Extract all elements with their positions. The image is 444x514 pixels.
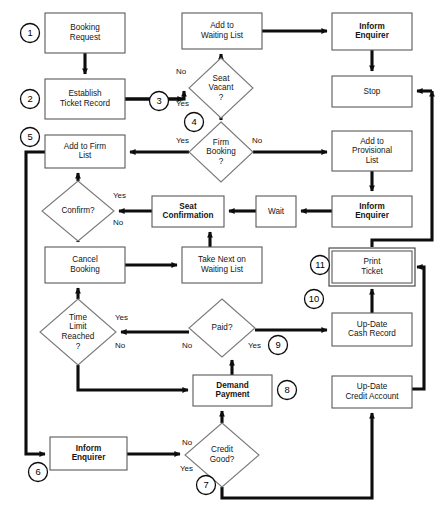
step-5[interactable]: 5 bbox=[21, 128, 40, 147]
node-inform_enquirer_top[interactable]: InformEnquirer bbox=[332, 13, 412, 50]
decision-credit_good[interactable]: CreditGood? bbox=[185, 423, 259, 487]
node-label-line: Inform bbox=[76, 444, 101, 453]
edge-label-time-limit-yes: Yes bbox=[115, 313, 128, 322]
step-1[interactable]: 1 bbox=[21, 24, 40, 43]
node-label-line: ? bbox=[76, 342, 81, 351]
node-label-line: Add to bbox=[360, 137, 384, 146]
edge-label-paid-yes: Yes bbox=[248, 341, 261, 350]
edge-label-confirm-yes: Yes bbox=[113, 191, 126, 200]
node-label-line: Booking bbox=[206, 147, 236, 156]
node-take_next_waiting[interactable]: Take Next onWaiting List bbox=[182, 247, 262, 283]
node-label-line: Credit Account bbox=[345, 392, 399, 401]
node-label-line: Add to Firm bbox=[64, 142, 106, 151]
flowchart-canvas: BookingRequestEstablishTicket RecordAdd … bbox=[0, 0, 444, 514]
node-add_firm_list[interactable]: Add to FirmList bbox=[45, 135, 125, 168]
edge-label-seat-vacant-no: No bbox=[176, 67, 187, 76]
node-inform_enquirer_mid[interactable]: InformEnquirer bbox=[332, 196, 412, 227]
edge-label-time-limit-no: No bbox=[115, 341, 126, 350]
node-label-line: Request bbox=[70, 33, 101, 42]
node-update_credit_account[interactable]: Up-DateCredit Account bbox=[332, 376, 412, 408]
node-label-line: Print bbox=[364, 257, 382, 266]
node-label-line: Reached bbox=[62, 332, 95, 341]
node-add_waiting_list[interactable]: Add toWaiting List bbox=[182, 13, 262, 49]
step-number: 2 bbox=[27, 93, 32, 104]
node-inform_enquirer_bottom[interactable]: InformEnquirer bbox=[50, 437, 127, 470]
decision-seat_vacant[interactable]: SeatVacant? bbox=[189, 58, 253, 118]
step-9[interactable]: 9 bbox=[269, 336, 288, 355]
step-8[interactable]: 8 bbox=[278, 381, 297, 400]
step-number: 4 bbox=[191, 116, 196, 127]
node-label-line: Up-Date bbox=[357, 320, 388, 329]
edge-firmlist-to-inform-bottom bbox=[26, 152, 45, 454]
step-11[interactable]: 11 bbox=[311, 256, 330, 275]
node-label-line: Enquirer bbox=[72, 453, 106, 462]
edge-label-firm-booking-no: No bbox=[252, 136, 263, 145]
node-seat_confirmation[interactable]: SeatConfirmation bbox=[152, 196, 224, 227]
step-number: 8 bbox=[284, 384, 289, 395]
decision-paid[interactable]: Paid? bbox=[189, 299, 255, 357]
node-label-line: Paid? bbox=[212, 323, 233, 332]
node-label-line: Time bbox=[69, 313, 87, 322]
node-label-line: Seat bbox=[179, 202, 197, 211]
node-label-line: Vacant bbox=[209, 83, 235, 92]
node-label-line: Cash Record bbox=[348, 329, 396, 338]
node-print_ticket[interactable]: PrintTicket bbox=[329, 248, 415, 286]
step-3[interactable]: 3 bbox=[150, 92, 169, 111]
step-number: 10 bbox=[309, 293, 319, 304]
decision-time_limit[interactable]: TimeLimitReached? bbox=[40, 299, 116, 365]
edge-label-firm-booking-yes: Yes bbox=[176, 136, 189, 145]
node-label-line: Inform bbox=[359, 22, 384, 31]
node-label-line: Cancel bbox=[72, 255, 98, 264]
step-number: 3 bbox=[156, 95, 161, 106]
node-label-line: Wait bbox=[268, 207, 285, 216]
node-label-line: Inform bbox=[359, 202, 384, 211]
edge-label-seat-vacant-yes: Yes bbox=[176, 99, 189, 108]
node-label-line: Booking bbox=[70, 265, 100, 274]
node-update_cash_record[interactable]: Up-DateCash Record bbox=[332, 313, 412, 346]
edge-label-paid-no: No bbox=[182, 341, 193, 350]
node-label-line: Add to bbox=[210, 21, 234, 30]
node-label-line: Waiting List bbox=[201, 31, 244, 40]
node-booking_request[interactable]: BookingRequest bbox=[45, 13, 125, 53]
node-cancel_booking[interactable]: CancelBooking bbox=[45, 247, 125, 283]
step-number: 7 bbox=[203, 479, 208, 490]
step-7[interactable]: 7 bbox=[197, 476, 216, 495]
node-establish_ticket[interactable]: EstablishTicket Record bbox=[45, 79, 125, 119]
node-demand_payment[interactable]: DemandPayment bbox=[193, 375, 272, 406]
node-label-line: Demand bbox=[216, 381, 248, 390]
node-label-line: Waiting List bbox=[201, 265, 244, 274]
step-2[interactable]: 2 bbox=[21, 90, 40, 109]
step-4[interactable]: 4 bbox=[185, 113, 204, 132]
edge-timelimit-no-to-demand bbox=[78, 365, 188, 390]
node-label-line: List bbox=[79, 151, 92, 160]
node-label-line: ? bbox=[219, 157, 224, 166]
node-label-line: ? bbox=[219, 93, 224, 102]
step-number: 6 bbox=[35, 466, 40, 477]
node-add_provisional_list[interactable]: Add toProvisionalList bbox=[332, 131, 412, 171]
step-10[interactable]: 10 bbox=[305, 290, 324, 309]
node-label-line: Booking bbox=[70, 23, 100, 32]
node-label-line: Credit bbox=[211, 445, 234, 454]
node-label-line: Enquirer bbox=[355, 211, 389, 220]
node-label-line: Limit bbox=[69, 322, 87, 331]
node-label-line: Ticket bbox=[361, 267, 383, 276]
edge-label-credit-good-no: No bbox=[182, 438, 193, 447]
step-number: 9 bbox=[275, 339, 280, 350]
node-label-line: Stop bbox=[364, 87, 381, 96]
node-label-line: Confirmation bbox=[163, 211, 214, 220]
step-number: 5 bbox=[27, 131, 32, 142]
node-label-line: Enquirer bbox=[355, 31, 389, 40]
node-label-line: Provisional bbox=[352, 146, 392, 155]
node-label-line: Up-Date bbox=[357, 382, 388, 391]
node-wait[interactable]: Wait bbox=[256, 196, 296, 227]
decision-confirm[interactable]: Confirm? bbox=[42, 181, 114, 241]
node-label-line: Payment bbox=[215, 390, 249, 399]
node-stop[interactable]: Stop bbox=[332, 76, 412, 107]
node-label-line: Establish bbox=[68, 89, 102, 98]
node-label-line: Take Next on bbox=[198, 255, 246, 264]
node-label-line: Good? bbox=[210, 455, 235, 464]
step-number: 1 bbox=[27, 27, 32, 38]
edge-label-confirm-no: No bbox=[113, 218, 124, 227]
step-6[interactable]: 6 bbox=[29, 463, 48, 482]
node-label-line: Firm bbox=[213, 138, 230, 147]
